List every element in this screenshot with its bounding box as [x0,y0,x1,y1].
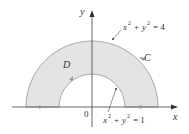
svg-text:2: 2 [147,20,150,26]
outer-equation-leader [113,30,121,39]
y-axis-label: y [79,6,85,17]
svg-text:+: + [114,115,119,125]
svg-text:2: 2 [128,20,131,26]
origin-label: 0 [84,109,89,119]
svg-text:2: 2 [127,113,130,119]
x-axis-arrow-icon [171,105,178,110]
x-axis-label: x [172,111,178,122]
svg-text:= 1: = 1 [133,115,145,125]
svg-text:+: + [134,22,139,32]
inner-circle-equation: x 2 + y 2 = 1 [102,113,145,125]
diagram-canvas: y x 0 D C x 2 + y 2 = 4 x 2 + y 2 = 1 [0,0,189,134]
svg-text:= 4: = 4 [153,22,165,32]
outer-leader-dot [112,38,114,40]
inner-leader-dot [115,88,117,90]
svg-text:x: x [102,115,107,125]
svg-text:2: 2 [108,113,111,119]
curve-label: C [144,52,151,63]
y-axis-arrow-icon [90,10,95,17]
svg-text:y: y [141,22,146,32]
region-label: D [62,59,71,70]
svg-text:y: y [121,115,126,125]
outer-circle-equation: x 2 + y 2 = 4 [122,20,165,32]
svg-text:x: x [122,22,127,32]
inner-equation-leader [108,89,116,112]
